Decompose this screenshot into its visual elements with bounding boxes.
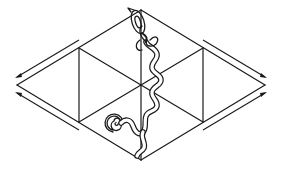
arrow-upper-right [203,40,267,78]
diagram-canvas: Line drawing of a hexagonal isometric gr… [0,0,282,171]
looped-head-icon [128,8,147,42]
arrow-lower-right [203,92,267,130]
arrow-lower-left [15,92,79,130]
arrow-upper-left [15,40,79,78]
coiled-tube-figure [105,8,161,156]
hexagon-diagram [0,0,282,171]
